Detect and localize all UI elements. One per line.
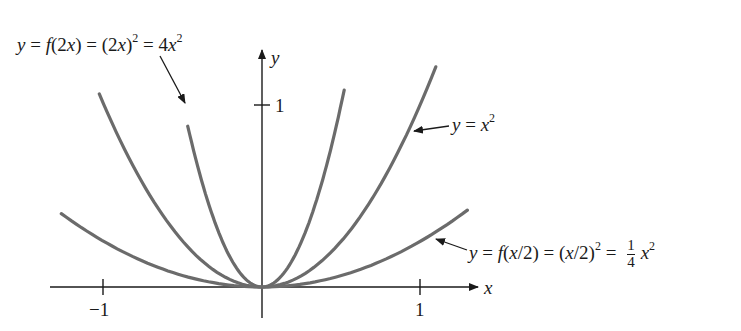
eq-bot-exp1: 2	[595, 239, 601, 253]
leader-arrow-4x2	[160, 56, 185, 103]
curve-4x2	[188, 90, 345, 287]
fraction-one-quarter: 14	[627, 238, 635, 271]
leader-arrow-x2	[414, 126, 449, 131]
eq-mid-y: y	[452, 114, 460, 135]
eq-mid-x: x	[481, 114, 489, 135]
curve-quarter-x2	[61, 210, 467, 287]
tick-label-x-pos1: 1	[415, 300, 425, 319]
eq-mid-eq: =	[465, 114, 476, 135]
eq-top-x1: x	[67, 34, 75, 55]
eq-top-coef: 4	[159, 34, 169, 55]
x-axis-label: x	[484, 278, 492, 297]
eq-top-p1: )	[75, 34, 81, 55]
eq-bot-x2: x	[565, 242, 573, 263]
tick-label-x-neg1: −1	[89, 300, 109, 319]
curve-x2	[99, 67, 436, 287]
tick-label-y-1: 1	[275, 96, 285, 115]
equation-label-x2: y = x2	[452, 115, 495, 134]
y-axis-label: y	[271, 48, 279, 67]
eq-bot-rest1: /2)	[518, 242, 539, 263]
eq-top-arg1: (2	[51, 34, 67, 55]
eq-top-x3: x	[168, 34, 176, 55]
eq-top-eq3: =	[143, 34, 154, 55]
eq-top-eq2: =	[86, 34, 97, 55]
eq-top-exp2: 2	[177, 31, 183, 45]
eq-top-x2: x	[118, 34, 126, 55]
eq-top-open: (2	[102, 34, 118, 55]
eq-bot-x1: x	[509, 242, 517, 263]
eq-mid-exp: 2	[489, 111, 495, 125]
eq-bot-exp2: 2	[649, 239, 655, 253]
eq-bot-eq3: =	[606, 242, 617, 263]
eq-bot-y: y	[469, 242, 477, 263]
equation-label-4x2: y = f(2x) = (2x)2 = 4x2	[17, 35, 183, 54]
eq-top-y: y	[17, 34, 25, 55]
eq-bot-rest2: /2)	[574, 242, 595, 263]
eq-top-exp1: 2	[132, 31, 138, 45]
fraction-numerator: 1	[627, 238, 635, 255]
leader-arrow-quarter-x2	[436, 239, 467, 250]
equation-label-quarter-x2: y = f(x/2) = (x/2)2 = 14x2	[469, 238, 655, 271]
eq-top-eq1: =	[30, 34, 41, 55]
eq-bot-x3: x	[641, 242, 649, 263]
fraction-denominator: 4	[627, 255, 635, 271]
eq-bot-eq1: =	[482, 242, 493, 263]
eq-bot-eq2: =	[544, 242, 555, 263]
